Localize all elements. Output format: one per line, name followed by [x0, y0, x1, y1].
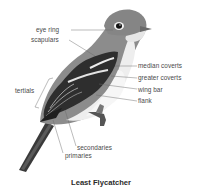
label-median-coverts: median coverts — [138, 62, 182, 69]
label-primaries: primaries — [65, 152, 92, 159]
label-greater-coverts: greater coverts — [138, 74, 181, 81]
least-flycatcher-illustration — [0, 0, 202, 193]
label-tertials: tertials — [15, 87, 34, 94]
bird-diagram: eye ring scapulars median coverts greate… — [0, 0, 202, 193]
label-secondaries: secondaries — [77, 144, 112, 151]
label-wing-bar: wing bar — [138, 86, 163, 93]
label-flank: flank — [138, 97, 152, 104]
label-eye-ring: eye ring — [36, 26, 59, 33]
label-scapulars: scapulars — [31, 36, 59, 43]
eye — [116, 23, 122, 28]
diagram-title: Least Flycatcher — [0, 178, 202, 187]
